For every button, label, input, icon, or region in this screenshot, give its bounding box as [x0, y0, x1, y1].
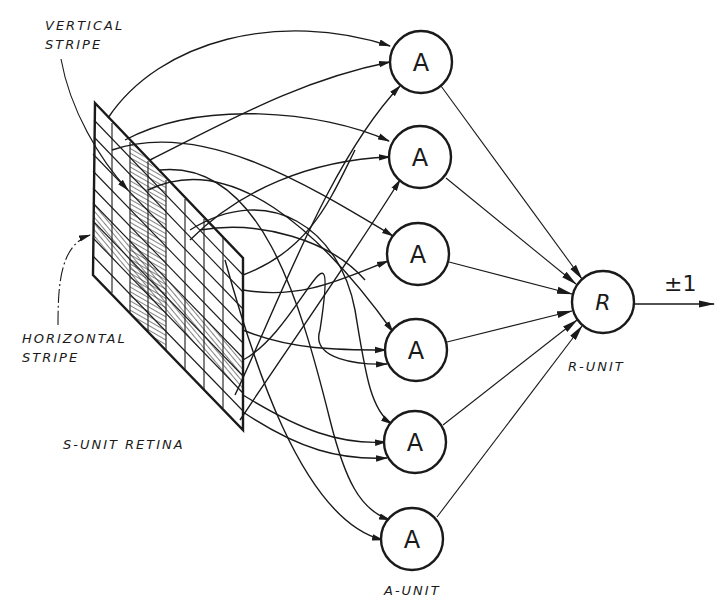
- a-unit-node: A: [385, 319, 447, 381]
- a-unit-label: A-UNIT: [383, 583, 441, 598]
- horizontal-stripe-label-2: STRIPE: [22, 350, 79, 365]
- a-unit-node: A: [381, 508, 443, 570]
- svg-text:A: A: [412, 144, 429, 172]
- horizontal-stripe-leader: [58, 235, 90, 325]
- retina-frame: [93, 103, 243, 430]
- a-unit-node: A: [384, 411, 446, 473]
- a-units: A A A A A A: [381, 31, 452, 570]
- svg-text:R: R: [595, 290, 610, 315]
- a-unit-node: A: [389, 126, 451, 188]
- vertical-stripe-label: VERTICAL: [45, 18, 124, 33]
- retina-label: S-UNIT RETINA: [63, 437, 185, 452]
- r-unit-label: R-UNIT: [568, 359, 625, 374]
- svg-text:A: A: [407, 429, 424, 457]
- svg-text:A: A: [404, 526, 421, 554]
- r-unit-node: R: [572, 271, 634, 333]
- s-unit-retina: [93, 103, 243, 430]
- horizontal-stripe-label: HORIZONTAL: [22, 331, 127, 346]
- a-to-r-connections: [437, 86, 582, 517]
- a-unit-node: A: [390, 31, 452, 93]
- svg-text:A: A: [410, 241, 427, 269]
- output-label: ±1: [664, 271, 696, 296]
- vertical-stripe-label-2: STRIPE: [45, 37, 102, 52]
- a-unit-node: A: [387, 223, 449, 285]
- perceptron-diagram: A A A A A A R ±1 VERTICAL STRIPE HORIZO: [0, 0, 726, 612]
- svg-text:A: A: [408, 337, 425, 365]
- svg-text:A: A: [413, 49, 430, 77]
